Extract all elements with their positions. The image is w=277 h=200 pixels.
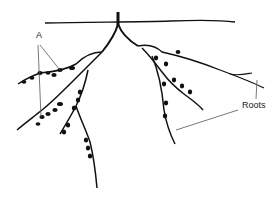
- leader-a-lower: [38, 45, 41, 117]
- root-right-upper: [138, 45, 264, 88]
- root-right-outer: [152, 56, 175, 144]
- label-nodules-a: A: [36, 31, 42, 40]
- soil-line: [45, 20, 235, 23]
- leader-roots-upper: [256, 80, 257, 99]
- root-left-diagonal: [17, 52, 102, 130]
- leader-a-upper: [40, 45, 60, 70]
- label-roots: Roots: [242, 101, 266, 110]
- taproot-split-right: [118, 24, 138, 46]
- nodules: [22, 50, 193, 159]
- taproot-split-left: [102, 24, 118, 52]
- root-right-offshoot: [230, 73, 252, 75]
- leader-roots-lower: [176, 110, 238, 130]
